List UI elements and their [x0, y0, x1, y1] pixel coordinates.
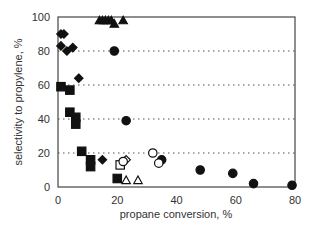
y-tick-label: 0: [44, 181, 50, 193]
data-points: [57, 16, 296, 189]
point-filled-circle: [249, 179, 257, 187]
x-axis-label: propane conversion, %: [120, 208, 233, 220]
y-tick-label: 40: [38, 113, 50, 125]
y-axis-label: selectivity to propylene, %: [12, 38, 24, 165]
point-filled-square: [57, 83, 65, 91]
y-tick-labels: 020406080100: [32, 11, 50, 193]
x-tick-label: 20: [111, 194, 123, 206]
point-filled-square: [78, 147, 86, 155]
point-filled-square: [86, 162, 94, 170]
point-filled-diamond: [75, 74, 83, 82]
point-open-triangle: [122, 176, 130, 184]
point-open-circle: [149, 149, 157, 157]
point-filled-circle: [288, 181, 296, 189]
point-filled-diamond: [98, 156, 106, 164]
y-tick-label: 100: [32, 11, 50, 23]
point-filled-circle: [122, 117, 130, 125]
scatter-chart: 020406080100 020406080 propane conversio…: [0, 0, 316, 231]
point-open-circle: [119, 157, 127, 165]
point-open-circle: [155, 159, 163, 167]
y-tick-label: 80: [38, 45, 50, 57]
x-tick-label: 60: [230, 194, 242, 206]
x-tick-label: 80: [289, 194, 301, 206]
point-open-triangle: [134, 176, 142, 184]
point-filled-circle: [196, 166, 204, 174]
x-tick-label: 40: [170, 194, 182, 206]
point-filled-circle: [110, 47, 118, 55]
y-tick-label: 20: [38, 147, 50, 159]
point-filled-square: [72, 120, 80, 128]
point-filled-circle: [229, 169, 237, 177]
point-filled-square: [113, 174, 121, 182]
gridlines: [58, 51, 295, 153]
x-tick-labels: 020406080: [55, 194, 301, 206]
point-filled-square: [66, 86, 74, 94]
x-tick-label: 0: [55, 194, 61, 206]
y-tick-label: 60: [38, 79, 50, 91]
